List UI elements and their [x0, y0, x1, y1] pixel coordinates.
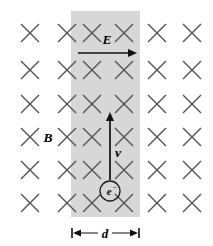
- field-into-page-marker: [148, 194, 166, 212]
- field-into-page-marker: [21, 128, 39, 146]
- field-into-page-marker: [183, 194, 201, 212]
- field-into-page-marker: [183, 95, 201, 113]
- field-into-page-marker: [21, 61, 39, 79]
- electron-symbol: e: [107, 186, 112, 197]
- magnetic-field-label: B: [42, 130, 52, 145]
- figure-canvas: E v B e − d: [0, 0, 213, 246]
- field-into-page-marker: [21, 161, 39, 179]
- field-into-page-marker: [148, 61, 166, 79]
- dimension-right-arrow-head: [130, 230, 138, 237]
- field-into-page-marker: [183, 161, 201, 179]
- field-into-page-marker: [148, 24, 166, 42]
- dimension-label: d: [102, 226, 109, 241]
- field-into-page-marker: [183, 24, 201, 42]
- field-into-page-marker: [21, 95, 39, 113]
- field-into-page-marker: [21, 194, 39, 212]
- field-into-page-marker: [183, 61, 201, 79]
- field-into-page-marker: [183, 128, 201, 146]
- physics-figure: E v B e − d: [0, 0, 213, 246]
- electron-charge-sign: −: [113, 184, 117, 192]
- field-into-page-marker: [148, 95, 166, 113]
- field-into-page-marker: [148, 161, 166, 179]
- dimension-left-arrow-head: [73, 230, 81, 237]
- band-width-dimension: d: [72, 226, 139, 241]
- velocity-label: v: [115, 145, 122, 160]
- field-into-page-marker: [21, 24, 39, 42]
- field-into-page-marker: [148, 128, 166, 146]
- electric-field-label: E: [101, 32, 111, 47]
